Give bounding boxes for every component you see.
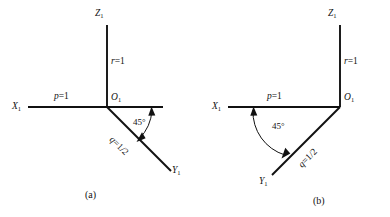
figure-container: Z1 X1 Y1 O1 p=1 r=1 q=1/2 45° (a) Z1 X1 … <box>0 0 390 217</box>
panel-a-angle-label: 45° <box>133 118 146 127</box>
panel-a-y-axis-label: Y1 <box>172 166 181 176</box>
panel-b-origin-label: O1 <box>344 93 354 103</box>
panel-b-caption: (b) <box>313 196 325 206</box>
panel-b-x-axis-label: X1 <box>212 102 221 112</box>
panel-a-x-axis-label: X1 <box>12 102 21 112</box>
panel-b-r-label: r=1 <box>344 57 358 67</box>
panel-b-angle-arc <box>253 110 285 155</box>
panel-b-z-axis-label: Z1 <box>328 9 337 19</box>
panel-b-p-label: p=1 <box>267 92 282 102</box>
panel-a-origin-label: O1 <box>111 93 121 103</box>
panel-a-linework <box>28 25 171 171</box>
figure-linework <box>0 0 390 217</box>
panel-a-caption: (a) <box>85 190 96 200</box>
panel-b-angle-label: 45° <box>272 122 285 131</box>
panel-b-linework <box>228 25 340 175</box>
panel-a-z-axis-label: Z1 <box>95 9 104 19</box>
panel-a-p-label: p=1 <box>54 92 69 102</box>
panel-a-r-label: r=1 <box>111 57 125 67</box>
panel-b-y-axis-label: Y1 <box>259 177 268 187</box>
